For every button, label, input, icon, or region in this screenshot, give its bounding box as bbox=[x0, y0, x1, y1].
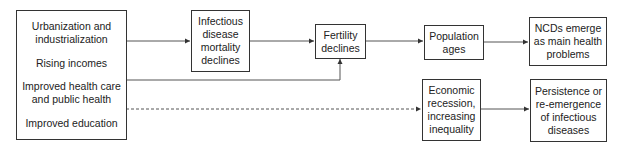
population-ages-box: Population ages bbox=[424, 25, 484, 60]
recession-box: Economic recession, increasing inequalit… bbox=[422, 79, 481, 141]
driver-urbanization: Urbanization and industrialization bbox=[32, 20, 111, 46]
recession-label: Economic recession, increasing inequalit… bbox=[428, 84, 476, 136]
fertility-box: Fertility declines bbox=[315, 24, 366, 59]
ncds-box: NCDs emerge as main health problems bbox=[529, 17, 607, 66]
persistence-label: Persistence or re-emergence of infectiou… bbox=[535, 85, 602, 137]
persistence-box: Persistence or re-emergence of infectiou… bbox=[530, 79, 607, 142]
driver-education: Improved education bbox=[25, 117, 117, 130]
ncds-label: NCDs emerge as main health problems bbox=[534, 22, 602, 61]
driver-health-care: Improved health care and public health bbox=[22, 80, 121, 106]
driver-rising-incomes: Rising incomes bbox=[36, 57, 107, 70]
population-ages-label: Population ages bbox=[429, 30, 479, 56]
drivers-box: Urbanization and industrialization Risin… bbox=[16, 10, 127, 140]
fertility-label: Fertility declines bbox=[321, 29, 360, 55]
infectious-decline-box: Infectious disease mortality declines bbox=[191, 10, 250, 72]
infectious-decline-label: Infectious disease mortality declines bbox=[198, 15, 243, 67]
